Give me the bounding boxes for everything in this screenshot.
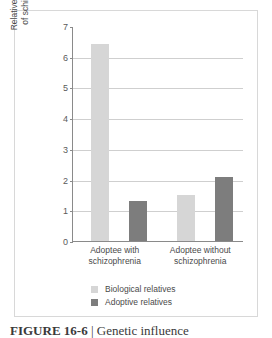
ytick-label-6: 6 — [63, 53, 68, 62]
x-axis-category-labels: Adoptee with schizophrenia Adoptee witho… — [72, 245, 243, 266]
ytick-label-0: 0 — [63, 238, 68, 247]
y-axis-title-line-1: Relatives showing symptoms — [9, 0, 19, 30]
x-category-label-1: Adoptee with schizophrenia — [72, 245, 158, 266]
legend-label-adoptive: Adoptive relatives — [105, 298, 172, 307]
y-axis-title-line-2: of schizophrenia (percent) — [20, 0, 30, 25]
x-category-1-line-1: Adoptee with — [90, 245, 139, 255]
bar-adoptive-group-1 — [129, 201, 147, 241]
ytick-label-2: 2 — [63, 176, 68, 185]
tickmark-7 — [70, 27, 73, 28]
ytick-label-5: 5 — [63, 84, 68, 93]
tickmark-3 — [70, 150, 73, 151]
gridline-0: 0 — [73, 242, 243, 243]
bar-adoptive-group-2 — [215, 177, 233, 242]
tickmark-6 — [70, 58, 73, 59]
legend-swatch-biological-icon — [91, 286, 98, 293]
legend-item-biological: Biological relatives — [91, 283, 175, 296]
gridline-7: 7 — [73, 27, 243, 28]
legend-swatch-adoptive-icon — [91, 299, 98, 306]
bar-biological-group-2 — [177, 195, 195, 241]
legend-item-adoptive: Adoptive relatives — [91, 296, 175, 309]
plot-area: 7 6 5 4 3 2 1 0 — [72, 27, 243, 242]
figure-caption-number: FIGURE 16-6 — [10, 323, 88, 338]
tickmark-0 — [70, 242, 73, 243]
figure-caption-text: Genetic influence — [97, 323, 189, 338]
tickmark-4 — [70, 119, 73, 120]
x-category-2-line-1: Adoptee without — [170, 245, 231, 255]
ytick-label-3: 3 — [63, 145, 68, 154]
ytick-label-1: 1 — [63, 207, 68, 216]
figure-frame: Relatives showing symptoms of schizophre… — [14, 10, 258, 317]
figure-caption: FIGURE 16-6 | Genetic influence — [10, 323, 189, 338]
legend-label-biological: Biological relatives — [105, 285, 175, 294]
ytick-label-4: 4 — [63, 115, 68, 124]
ytick-label-7: 7 — [63, 23, 68, 32]
bar-biological-group-1 — [91, 44, 109, 241]
tickmark-2 — [70, 181, 73, 182]
x-category-1-line-2: schizophrenia — [89, 256, 141, 266]
x-category-label-2: Adoptee without schizophrenia — [158, 245, 244, 266]
y-axis-title: Relatives showing symptoms of schizophre… — [9, 0, 31, 63]
tickmark-5 — [70, 88, 73, 89]
x-category-2-line-2: schizophrenia — [174, 256, 226, 266]
tickmark-1 — [70, 211, 73, 212]
figure-caption-separator: | — [91, 323, 94, 338]
chart-legend: Biological relatives Adoptive relatives — [91, 283, 175, 309]
